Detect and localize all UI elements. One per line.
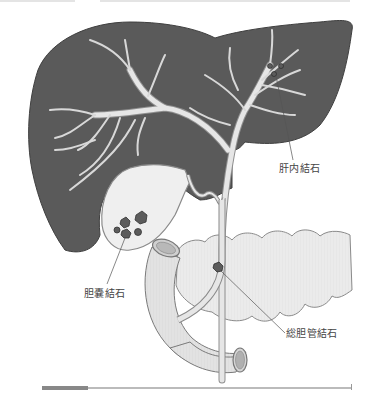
label-intrahepatic-stones: 肝内結石 <box>279 160 320 175</box>
liver <box>29 20 353 251</box>
gallbladder <box>102 165 190 251</box>
bottom-rule <box>42 387 352 389</box>
label-gallbladder-stones: 胆嚢結石 <box>84 285 125 300</box>
stone <box>268 64 273 69</box>
stone <box>114 227 120 233</box>
label-common-bile-duct-stones: 総胆管結石 <box>286 325 338 340</box>
duodenum-lower-lumen <box>236 351 245 369</box>
stone <box>272 72 277 77</box>
anatomy-diagram <box>0 0 372 402</box>
bottom-rule-cap <box>351 384 352 390</box>
stone <box>279 64 284 69</box>
stone <box>135 229 142 236</box>
bottom-rule-accent <box>42 386 88 390</box>
